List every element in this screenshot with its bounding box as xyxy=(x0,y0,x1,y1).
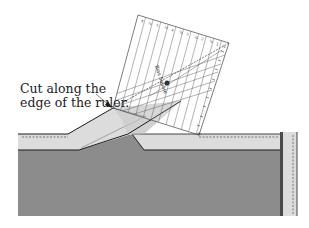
fabric-right-border xyxy=(280,132,297,216)
cut-instruction-label: Cut along the edge of the ruler. xyxy=(20,82,102,110)
illustration: Bias Square 6 ½ 5 ½ 4 ½ 3 ½ 2 ½ 1 ½ xyxy=(0,0,309,228)
cut-instruction-line2: edge of the ruler. xyxy=(20,96,102,110)
cut-instruction-line1: Cut along the xyxy=(20,82,102,96)
